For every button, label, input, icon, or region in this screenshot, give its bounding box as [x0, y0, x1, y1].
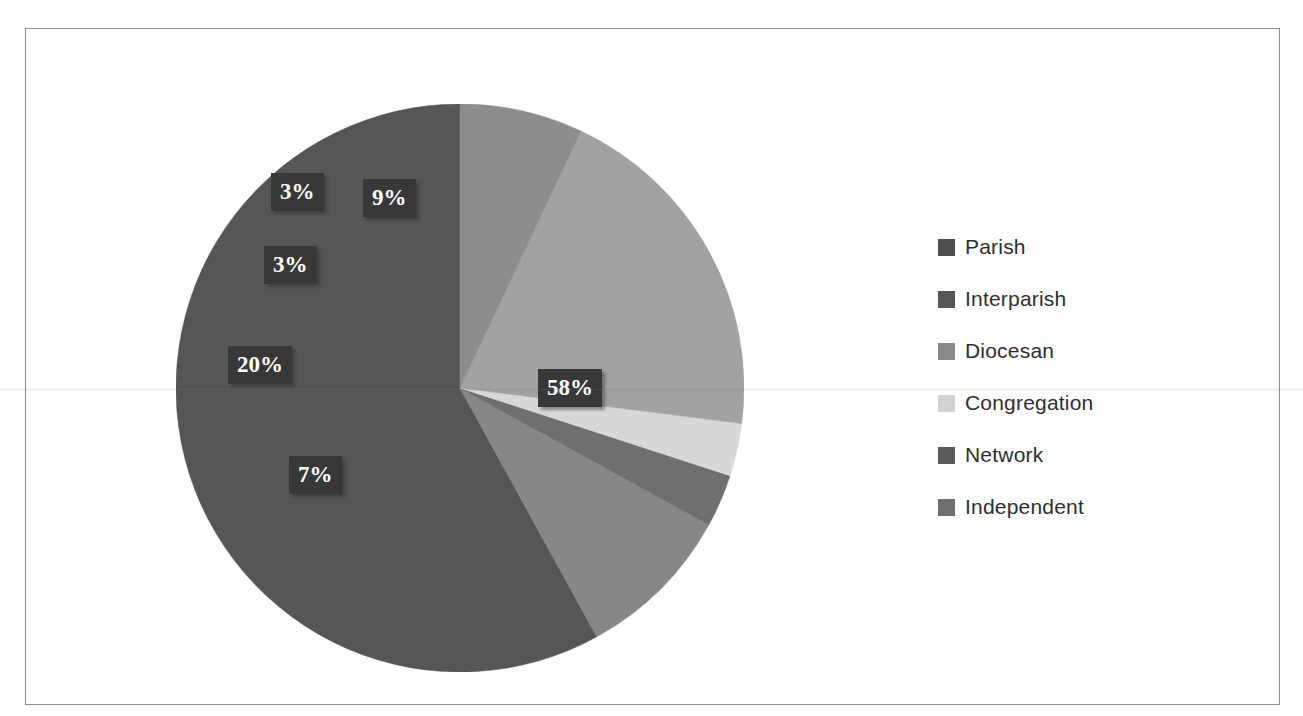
legend-swatch-icon [938, 395, 955, 412]
legend-label: Interparish [965, 287, 1066, 311]
chart-legend: ParishInterparishDiocesanCongregationNet… [938, 221, 1238, 533]
pie-label-congregation: 3% [264, 246, 317, 284]
pie-chart [176, 104, 744, 672]
pie-label-interparish: 3% [271, 173, 324, 211]
chart-frame: 58%9%3%3%20%7% ParishInterparishDiocesan… [25, 28, 1280, 705]
scanned-page: 58%9%3%3%20%7% ParishInterparishDiocesan… [0, 0, 1303, 716]
legend-label: Independent [965, 495, 1084, 519]
legend-swatch-icon [938, 499, 955, 516]
legend-item-parish[interactable]: Parish [938, 221, 1238, 273]
legend-label: Network [965, 443, 1043, 467]
legend-swatch-icon [938, 447, 955, 464]
cropped-caption-line [0, 0, 1303, 11]
legend-label: Diocesan [965, 339, 1054, 363]
pie-label-independent: 7% [289, 456, 342, 494]
pie-slice-group [176, 104, 744, 672]
legend-item-congregation[interactable]: Congregation [938, 377, 1238, 429]
pie-chart-svg [176, 104, 744, 672]
legend-label: Congregation [965, 391, 1094, 415]
legend-label: Parish [965, 235, 1026, 259]
legend-swatch-icon [938, 291, 955, 308]
legend-swatch-icon [938, 239, 955, 256]
pie-label-network: 9% [363, 179, 416, 217]
pie-label-diocesan: 20% [228, 346, 292, 384]
legend-item-interparish[interactable]: Interparish [938, 273, 1238, 325]
legend-item-independent[interactable]: Independent [938, 481, 1238, 533]
legend-swatch-icon [938, 343, 955, 360]
legend-item-diocesan[interactable]: Diocesan [938, 325, 1238, 377]
legend-item-network[interactable]: Network [938, 429, 1238, 481]
pie-label-parish: 58% [538, 369, 602, 407]
